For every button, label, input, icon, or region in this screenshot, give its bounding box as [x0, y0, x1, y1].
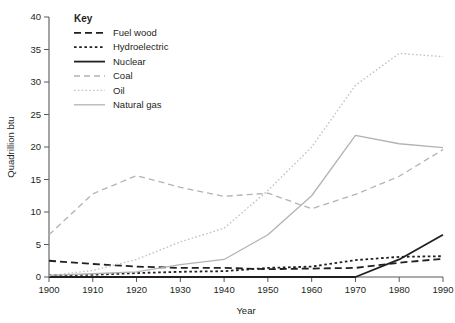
x-tick-label: 1950 — [257, 284, 278, 295]
series-line-natural-gas — [49, 135, 443, 275]
legend-label-natural-gas: Natural gas — [113, 99, 162, 110]
y-tick-label: 0 — [36, 271, 41, 282]
legend-title: Key — [74, 13, 93, 24]
x-tick-label: 1910 — [82, 284, 103, 295]
x-tick-label: 1980 — [389, 284, 410, 295]
chart-canvas: 0510152025303540 19001910192019301940195… — [0, 0, 455, 323]
series-line-fuel-wood — [49, 259, 443, 269]
series-line-oil — [49, 53, 443, 275]
x-tick-label: 1990 — [432, 284, 453, 295]
data-series-group — [49, 53, 443, 277]
x-tick-label: 1970 — [345, 284, 366, 295]
x-axis-ticks: 1900191019201930194019501960197019801990 — [38, 277, 453, 295]
x-tick-label: 1960 — [301, 284, 322, 295]
y-axis-ticks: 0510152025303540 — [30, 11, 49, 282]
legend-label-nuclear: Nuclear — [113, 56, 146, 67]
x-tick-label: 1930 — [170, 284, 191, 295]
x-axis-title: Year — [236, 305, 255, 316]
line-chart: 0510152025303540 19001910192019301940195… — [0, 0, 455, 323]
y-tick-label: 30 — [30, 76, 41, 87]
y-tick-label: 5 — [36, 239, 41, 250]
legend-label-fuel-wood: Fuel wood — [113, 27, 157, 38]
x-tick-label: 1900 — [38, 284, 59, 295]
y-tick-label: 40 — [30, 11, 41, 22]
legend-label-hydroelectric: Hydroelectric — [113, 41, 169, 52]
y-tick-label: 15 — [30, 174, 41, 185]
y-tick-label: 25 — [30, 109, 41, 120]
y-tick-label: 35 — [30, 44, 41, 55]
x-tick-label: 1920 — [126, 284, 147, 295]
legend-label-oil: Oil — [113, 85, 125, 96]
legend-label-coal: Coal — [113, 70, 133, 81]
chart-legend: KeyFuel woodHydroelectricNuclearCoalOilN… — [74, 13, 169, 110]
y-tick-label: 10 — [30, 206, 41, 217]
series-line-nuclear — [49, 235, 443, 277]
x-tick-label: 1940 — [214, 284, 235, 295]
y-axis-title: Quadrillion btu — [5, 116, 16, 177]
y-tick-label: 20 — [30, 141, 41, 152]
series-line-coal — [49, 150, 443, 235]
